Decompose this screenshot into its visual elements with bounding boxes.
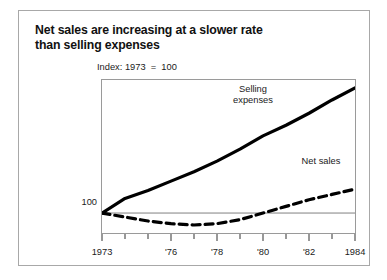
x-axis-ticks [101,234,357,247]
title-line-1: Net sales are increasing at a slower rat… [35,23,345,38]
chart-card: Net sales are increasing at a slower rat… [18,10,370,266]
title-line-2: than selling expenses [35,38,345,53]
plot-area: Sellingexpenses Net sales [101,79,356,234]
x-axis-tick-label: '80 [257,247,269,257]
series-label-net-sales: Net sales [290,156,352,167]
chart-subtitle: Index: 1973 = 100 [97,62,177,72]
series-label-line: Selling [222,84,284,95]
page-title: Net sales are increasing at a slower rat… [35,23,345,52]
series-line-selling-expenses [102,88,355,213]
series-label-selling-expenses: Sellingexpenses [222,84,284,106]
x-axis-tick-label: 1973 [92,247,113,257]
y-axis-tick-label-100: 100 [73,197,97,207]
x-axis-labels: 1973'76'78'80'821984 [101,247,356,261]
x-axis-tick-label: '78 [211,247,223,257]
x-axis-tick-label: '76 [165,247,177,257]
x-axis-tick-label: '82 [303,247,315,257]
x-axis-tick-label: 1984 [345,247,366,257]
series-label-line: expenses [222,95,284,106]
